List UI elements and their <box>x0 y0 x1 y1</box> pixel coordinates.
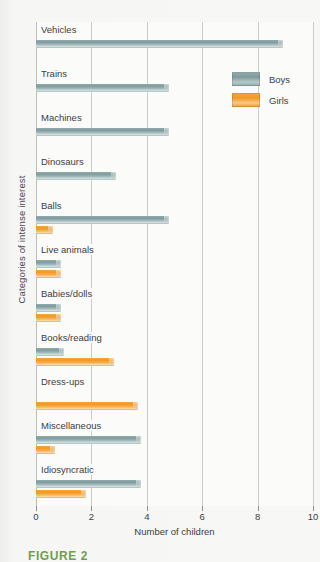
category-label: Live animals <box>40 244 97 255</box>
figure-caption: FIGURE 2 <box>28 549 88 562</box>
bar-boys <box>36 216 169 224</box>
x-tick-label: 2 <box>89 511 94 522</box>
category-group: Live animals <box>36 242 313 286</box>
bar-cap <box>56 260 61 268</box>
category-group: Machines <box>36 110 313 154</box>
y-axis-title: Categories of intense interest <box>16 140 27 340</box>
bar-cap <box>81 490 86 498</box>
category-group: Dress-ups <box>36 374 313 418</box>
bar-cap <box>56 314 61 322</box>
category-label: Trains <box>40 68 70 79</box>
bar-cap <box>111 172 116 180</box>
legend-item-girls: Girls <box>232 93 290 107</box>
bar-cap <box>56 304 61 312</box>
girls-swatch-icon <box>232 93 260 107</box>
bar-girls <box>36 446 55 454</box>
category-label: Miscellaneous <box>40 420 104 431</box>
bar-girls <box>36 358 114 366</box>
x-axis-title: Number of children <box>36 526 313 537</box>
x-tick-label: 4 <box>144 511 149 522</box>
category-group: Babies/dolls <box>36 286 313 330</box>
bar-cap <box>109 358 114 366</box>
legend-label-boys: Boys <box>269 74 290 85</box>
x-axis: 0246810 <box>36 506 313 526</box>
category-label: Dress-ups <box>40 376 87 387</box>
category-label: Machines <box>40 112 85 123</box>
bar-cap <box>136 436 141 444</box>
category-group: Dinosaurs <box>36 154 313 198</box>
category-label: Vehicles <box>40 24 79 35</box>
figure-chart: Categories of intense interest VehiclesT… <box>0 0 320 562</box>
bar-boys <box>36 40 283 48</box>
x-tick-label: 6 <box>200 511 205 522</box>
bar-boys <box>36 260 61 268</box>
bar-cap <box>48 226 53 234</box>
bar-girls <box>36 270 61 278</box>
category-group: Miscellaneous <box>36 418 313 462</box>
x-tick-label: 8 <box>255 511 260 522</box>
bar-boys <box>36 84 169 92</box>
category-group: Books/reading <box>36 330 313 374</box>
x-tick-label: 10 <box>308 511 319 522</box>
category-group: Balls <box>36 198 313 242</box>
legend-item-boys: Boys <box>232 72 290 86</box>
legend-label-girls: Girls <box>269 95 289 106</box>
bar-boys <box>36 348 64 356</box>
bar-boys <box>36 304 61 312</box>
bar-boys <box>36 436 141 444</box>
category-label: Balls <box>40 200 65 211</box>
gridline-10 <box>313 22 314 506</box>
category-group: Vehicles <box>36 22 313 66</box>
bar-cap <box>136 480 141 488</box>
bar-boys <box>36 172 116 180</box>
legend: Boys Girls <box>232 72 290 114</box>
x-tick-label: 0 <box>33 511 38 522</box>
boys-swatch-icon <box>232 72 260 86</box>
category-label: Babies/dolls <box>40 288 95 299</box>
category-group: Idiosyncratic <box>36 462 313 506</box>
bar-cap <box>278 40 283 48</box>
bar-girls <box>36 490 86 498</box>
bar-boys <box>36 128 169 136</box>
bar-cap <box>50 446 55 454</box>
bar-girls <box>36 402 138 410</box>
category-label: Idiosyncratic <box>40 464 97 475</box>
category-label: Books/reading <box>40 332 105 343</box>
bar-girls <box>36 314 61 322</box>
bar-cap <box>59 348 64 356</box>
bar-cap <box>164 216 169 224</box>
bar-cap <box>164 128 169 136</box>
category-label: Dinosaurs <box>40 156 87 167</box>
bar-cap <box>56 270 61 278</box>
bar-cap <box>164 84 169 92</box>
bar-girls <box>36 226 53 234</box>
bar-cap <box>133 402 138 410</box>
bar-boys <box>36 480 141 488</box>
